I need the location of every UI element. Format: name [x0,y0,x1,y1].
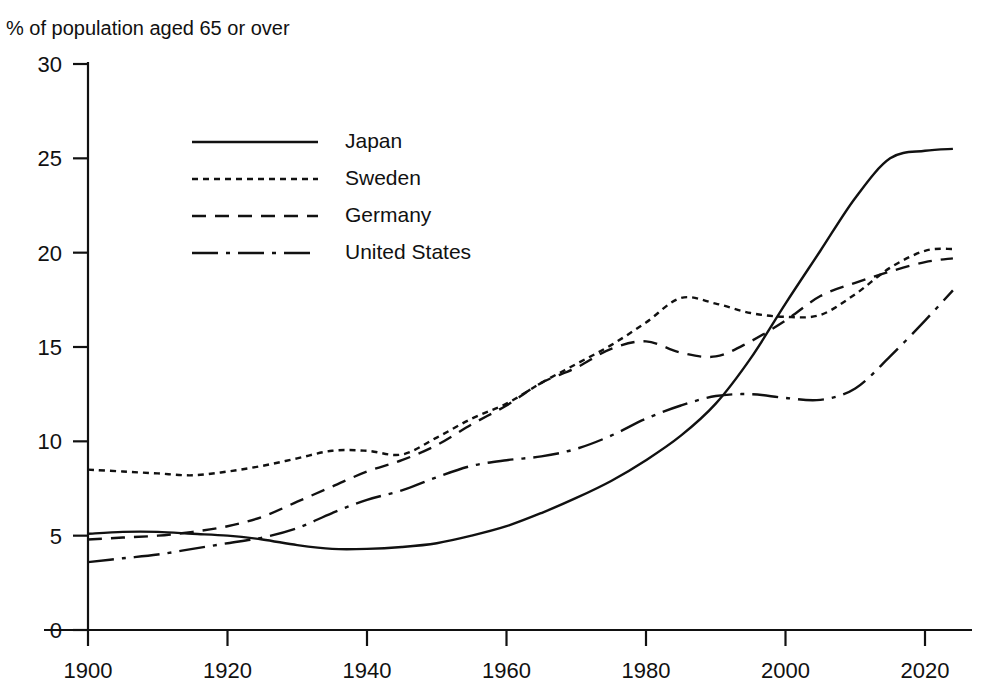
data-series-group [88,149,953,562]
legend-label-germany: Germany [345,203,432,226]
y-tick-label: 0 [50,618,62,643]
x-tick-label: 1900 [64,658,113,683]
chart-legend: JapanSwedenGermanyUnited States [192,129,471,263]
x-axis-ticks: 1900192019401960198020002020 [64,630,950,683]
legend-label-sweden: Sweden [345,166,421,189]
x-tick-label: 1920 [203,658,252,683]
legend-label-japan: Japan [345,129,402,152]
y-tick-label: 15 [38,335,62,360]
x-tick-label: 2000 [761,658,810,683]
y-tick-label: 10 [38,429,62,454]
series-line-sweden [88,249,953,476]
chart-figure: % of population aged 65 or over 05101520… [0,0,986,692]
y-tick-label: 5 [50,524,62,549]
y-tick-label: 30 [38,52,62,77]
x-tick-label: 1940 [343,658,392,683]
x-tick-label: 1980 [622,658,671,683]
line-chart-plot: 051015202530 190019201940196019802000202… [0,0,986,692]
y-tick-label: 25 [38,146,62,171]
x-tick-label: 2020 [901,658,950,683]
x-tick-label: 1960 [482,658,531,683]
series-line-japan [88,149,953,549]
y-tick-label: 20 [38,241,62,266]
y-axis-ticks: 051015202530 [38,52,88,643]
legend-label-united-states: United States [345,240,471,263]
